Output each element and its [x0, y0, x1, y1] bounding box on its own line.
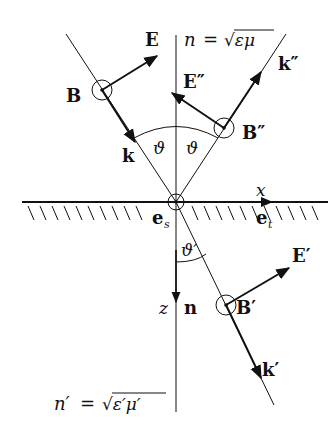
origin-dot	[174, 200, 178, 204]
upper-medium-eq: =	[203, 29, 218, 50]
lower-medium-sqrt: √ε′μ′	[102, 394, 141, 414]
E-vector	[102, 56, 157, 90]
label-B-double-prime: B″	[242, 122, 265, 143]
label-x-axis: x	[256, 180, 266, 200]
label-E-prime: E′	[292, 245, 311, 266]
label-theta-refraction: ϑ′	[181, 240, 197, 260]
interface-hatching	[28, 206, 318, 220]
label-e-s: e	[152, 207, 163, 228]
label-e-t: e	[256, 207, 267, 228]
label-n-normal: n	[184, 297, 197, 318]
label-theta-incidence: ϑ	[153, 138, 165, 158]
label-E-double-prime: E″	[183, 71, 205, 92]
label-e-t-sub: t	[268, 218, 273, 231]
label-k-double-prime: k″	[278, 53, 299, 74]
label-E: E	[145, 29, 159, 50]
upper-medium-n: n	[184, 29, 196, 50]
label-B-prime: B′	[236, 297, 256, 318]
label-k-prime: k′	[262, 359, 279, 380]
label-k: k	[122, 145, 135, 166]
label-B: B	[66, 85, 81, 106]
k-double-prime-vector	[224, 72, 261, 128]
label-z-axis: z	[158, 298, 169, 318]
diagram-canvas: n = √εμ E B k E″ k″ B″ ϑ ϑ x e s e t ϑ′ …	[0, 0, 332, 438]
label-theta-reflection: ϑ	[186, 138, 198, 158]
lower-medium-n: n′	[54, 393, 70, 414]
k-vector	[102, 90, 135, 142]
incident-ray	[66, 34, 176, 202]
upper-medium-sqrt: √εμ	[224, 30, 255, 50]
E-double-prime-vector	[172, 93, 224, 128]
lower-medium-eq: =	[80, 393, 95, 414]
label-e-s-sub: s	[164, 218, 170, 231]
